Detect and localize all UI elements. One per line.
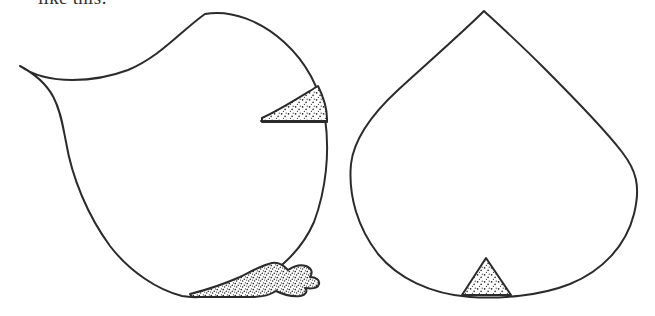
right-shape-group	[350, 11, 637, 298]
stippled-triangle-base	[462, 258, 511, 295]
stippled-wedge-lower	[190, 263, 319, 297]
left-blob-outline	[20, 13, 327, 297]
figure-canvas: like this:	[0, 0, 655, 316]
line-drawing-svg	[0, 0, 655, 316]
right-teardrop-outline	[350, 11, 637, 298]
stippled-triangle-upper	[262, 86, 327, 122]
left-shape-group	[20, 13, 327, 297]
